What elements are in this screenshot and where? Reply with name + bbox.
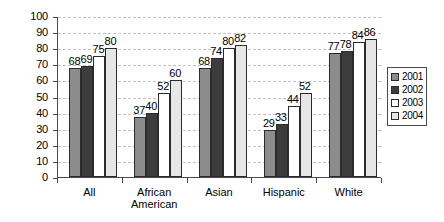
legend-item: 2004 bbox=[391, 110, 423, 122]
bar bbox=[134, 117, 146, 177]
y-tick-label: 60 bbox=[18, 75, 48, 86]
bar-value-label: 60 bbox=[164, 68, 186, 79]
bar-value-label: 78 bbox=[335, 39, 357, 50]
bar-value-label: 80 bbox=[99, 36, 121, 47]
x-category-label-line: Hispanic bbox=[251, 186, 316, 198]
y-tick-label: 10 bbox=[18, 156, 48, 167]
x-category-label: Hispanic bbox=[251, 186, 316, 198]
x-tick-mark bbox=[381, 178, 382, 183]
legend: 2001200220032004 bbox=[387, 67, 427, 126]
bar bbox=[300, 93, 312, 177]
bar bbox=[93, 56, 105, 177]
legend-label: 2003 bbox=[402, 98, 423, 108]
bar-value-label: 40 bbox=[140, 101, 162, 112]
x-tick-mark bbox=[251, 178, 252, 183]
x-category-label: Asian bbox=[187, 186, 252, 198]
bar-value-label: 82 bbox=[229, 33, 251, 44]
bar-value-label: 69 bbox=[75, 54, 97, 65]
y-tick-label: 70 bbox=[18, 59, 48, 70]
bar bbox=[365, 39, 377, 177]
bar-value-label: 68 bbox=[193, 56, 215, 67]
bar bbox=[211, 58, 223, 177]
bar bbox=[329, 53, 341, 177]
x-category-label: AfricanAmerican bbox=[122, 186, 187, 210]
y-tick-label: 50 bbox=[18, 92, 48, 103]
bar-value-label: 74 bbox=[205, 46, 227, 57]
y-tick-label: 30 bbox=[18, 124, 48, 135]
legend-label: 2001 bbox=[402, 72, 423, 82]
x-tick-mark bbox=[187, 178, 188, 183]
legend-label: 2002 bbox=[402, 85, 423, 95]
x-category-label-line: Asian bbox=[187, 186, 252, 198]
bar-chart: 0102030405060708090100 68697580374052606… bbox=[0, 0, 444, 222]
legend-swatch bbox=[391, 73, 399, 81]
y-tick-label: 0 bbox=[18, 172, 48, 183]
x-tick-mark bbox=[57, 178, 58, 183]
x-category-label-line: White bbox=[316, 186, 381, 198]
legend-label: 2004 bbox=[402, 111, 423, 121]
legend-item: 2003 bbox=[391, 97, 423, 109]
x-tick-mark bbox=[316, 178, 317, 183]
grid-line bbox=[58, 33, 381, 34]
bar-value-label: 33 bbox=[270, 112, 292, 123]
bar bbox=[105, 48, 117, 177]
legend-swatch bbox=[391, 86, 399, 94]
x-category-label: White bbox=[316, 186, 381, 198]
bar bbox=[69, 68, 81, 177]
bar bbox=[81, 66, 93, 177]
x-category-label-line: African bbox=[122, 186, 187, 198]
bar bbox=[235, 45, 247, 177]
x-category-label: All bbox=[57, 186, 122, 198]
legend-item: 2002 bbox=[391, 84, 423, 96]
legend-swatch bbox=[391, 99, 399, 107]
y-tick-label: 40 bbox=[18, 108, 48, 119]
y-tick-label: 100 bbox=[18, 11, 48, 22]
grid-line bbox=[58, 17, 381, 18]
bar bbox=[353, 42, 365, 177]
bar bbox=[223, 48, 235, 177]
bar bbox=[146, 113, 158, 177]
y-tick-label: 90 bbox=[18, 27, 48, 38]
y-tick-label: 20 bbox=[18, 140, 48, 151]
bar bbox=[199, 68, 211, 177]
bar bbox=[170, 80, 182, 177]
legend-swatch bbox=[391, 112, 399, 120]
bar-value-label: 52 bbox=[152, 81, 174, 92]
bar-value-label: 86 bbox=[359, 27, 381, 38]
bar bbox=[264, 130, 276, 177]
y-tick-label: 80 bbox=[18, 43, 48, 54]
bar-value-label: 52 bbox=[294, 81, 316, 92]
x-tick-mark bbox=[122, 178, 123, 183]
x-category-label-line: All bbox=[57, 186, 122, 198]
x-category-label-line: American bbox=[122, 198, 187, 210]
bar bbox=[276, 124, 288, 177]
legend-item: 2001 bbox=[391, 71, 423, 83]
bar-value-label: 44 bbox=[282, 94, 304, 105]
bar bbox=[341, 51, 353, 177]
